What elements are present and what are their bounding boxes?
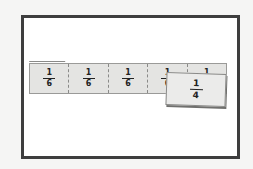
numerator: 1 [125, 69, 131, 77]
fourth-fraction-card: 1 4 [165, 72, 226, 107]
sixth-piece: 1 6 [109, 64, 148, 93]
sixth-piece: 1 6 [69, 64, 108, 93]
fraction-label: 1 4 [189, 79, 203, 100]
numerator: 1 [193, 79, 200, 88]
diagram-canvas: 1 6 1 6 1 6 1 6 [0, 0, 253, 169]
numerator: 1 [46, 69, 52, 77]
fraction-label: 1 6 [83, 69, 95, 88]
fraction-label: 1 6 [122, 69, 134, 88]
denominator: 6 [46, 80, 52, 88]
fraction-label: 1 6 [43, 69, 55, 88]
numerator: 1 [86, 69, 92, 77]
sixth-piece: 1 6 [30, 64, 69, 93]
denominator: 4 [192, 91, 199, 100]
denominator: 6 [125, 80, 131, 88]
denominator: 6 [86, 80, 92, 88]
